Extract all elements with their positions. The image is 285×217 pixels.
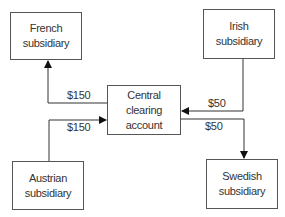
swedish-node-line2: subsidiary: [219, 184, 266, 199]
central-node-line3: account: [126, 118, 162, 133]
swedish-node-line1: Swedish: [222, 169, 261, 184]
irish-node-line1: Irish: [229, 19, 248, 34]
french-node-line1: French: [30, 21, 62, 36]
central-clearing-account-node: Central clearing account: [107, 85, 181, 135]
amount-central-to-swedish: $50: [205, 120, 222, 132]
central-node-line2: clearing: [126, 103, 162, 118]
amount-austrian-to-central: $150: [67, 121, 90, 133]
irish-node-line2: subsidiary: [216, 34, 263, 49]
amount-central-to-french: $150: [67, 89, 90, 101]
amount-irish-to-central: $50: [208, 97, 225, 109]
central-node-line1: Central: [127, 88, 160, 103]
irish-subsidiary-node: Irish subsidiary: [203, 9, 275, 59]
swedish-subsidiary-node: Swedish subsidiary: [206, 159, 278, 209]
austrian-node-line2: subsidiary: [25, 186, 72, 201]
french-subsidiary-node: French subsidiary: [10, 12, 82, 60]
austrian-node-line1: Austrian: [29, 171, 67, 186]
austrian-subsidiary-node: Austrian subsidiary: [12, 161, 84, 210]
french-node-line2: subsidiary: [23, 36, 70, 51]
